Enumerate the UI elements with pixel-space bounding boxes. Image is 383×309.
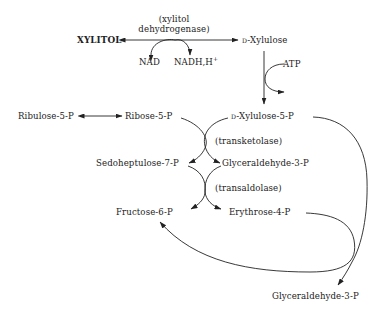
enzyme-label-line1: (xylitol [138,14,210,24]
pathway-diagram: (xylitol dehydrogenase) XYLITOL D-Xylulo… [0,0,383,309]
enzyme-transaldolase: (transaldolase) [215,184,282,193]
d-xylulose-5p-label: -Xylulose-5-P [236,111,294,121]
enzyme-xylitol-dehydrogenase: (xylitol dehydrogenase) [138,14,210,35]
nad-cofactor-arc [151,40,190,55]
node-d-xylulose-5p: D-Xylulose-5-P [231,112,294,121]
node-atp: ATP [283,60,301,69]
node-nad: NAD [139,58,160,67]
enzyme-transketolase: (transketolase) [215,137,282,146]
erythrose-to-fructose-curve [160,213,355,272]
transaldolase-arc-left [188,166,205,209]
node-sedoheptulose-7p: Sedoheptulose-7-P [96,159,179,168]
d-xylulose-label: -Xylulose [247,35,287,45]
atp-arc [265,64,284,92]
nadh-superscript: + [213,55,218,62]
node-erythrose-4p: Erythrose-4-P [229,208,290,217]
node-ribulose-5p: Ribulose-5-P [18,112,74,121]
node-glyceraldehyde-3p-bottom: Glyceraldehyde-3-P [272,292,359,301]
node-nadh: NADH,H+ [174,58,218,67]
transketolase-arc-left [181,118,206,163]
node-ribose-5p: Ribose-5-P [125,112,172,121]
xylulose5p-to-g3p-curve [313,117,367,285]
node-d-xylulose: D-Xylulose [242,36,287,45]
node-xylitol: XYLITOL [77,36,122,45]
nadh-label: NADH,H [174,57,213,67]
node-glyceraldehyde-3p-mid: Glyceraldehyde-3-P [222,159,309,168]
node-fructose-6p: Fructose-6-P [116,208,173,217]
enzyme-label-line2: dehydrogenase) [138,24,210,34]
reaction-arrows [0,0,383,309]
